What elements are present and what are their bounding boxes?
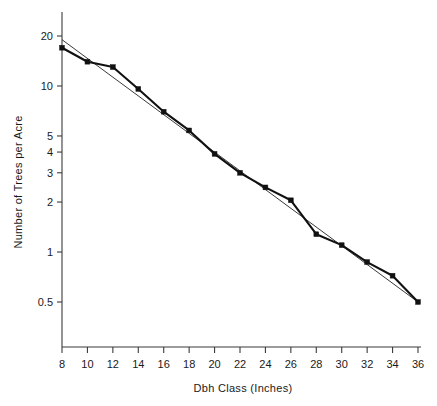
x-tick-label: 14 — [132, 358, 144, 370]
x-tick-label: 12 — [107, 358, 119, 370]
y-tick-label: 1 — [47, 246, 53, 258]
x-tick-label: 34 — [386, 358, 398, 370]
data-point-markers — [60, 45, 421, 304]
chart-container: 2010543210.5 810121416182022242628303234… — [0, 0, 437, 406]
data-point-marker — [416, 300, 421, 305]
y-tick-group: 2010543210.5 — [38, 30, 62, 308]
y-tick-label: 10 — [41, 80, 53, 92]
x-tick-group: 81012141618202224262830323436 — [59, 347, 424, 370]
y-tick-label: 5 — [47, 130, 53, 142]
y-tick-label: 0.5 — [38, 296, 53, 308]
x-axis-title: Dbh Class (Inches) — [194, 382, 293, 394]
x-tick-label: 36 — [412, 358, 424, 370]
x-tick-label: 16 — [158, 358, 170, 370]
x-tick-label: 32 — [361, 358, 373, 370]
plot-area — [60, 40, 421, 305]
x-tick-label: 22 — [234, 358, 246, 370]
data-point-marker — [212, 151, 217, 156]
x-tick-label: 26 — [285, 358, 297, 370]
data-point-marker — [263, 185, 268, 190]
data-point-marker — [314, 232, 319, 237]
data-point-marker — [161, 109, 166, 114]
data-point-marker — [85, 59, 90, 64]
y-tick-label: 4 — [47, 146, 53, 158]
y-axis-title: Number of Trees per Acre — [12, 115, 24, 248]
x-tick-label: 8 — [59, 358, 65, 370]
y-tick-label: 3 — [47, 167, 53, 179]
x-tick-label: 20 — [208, 358, 220, 370]
data-point-marker — [339, 243, 344, 248]
x-tick-label: 30 — [336, 358, 348, 370]
data-point-marker — [136, 87, 141, 92]
data-point-marker — [365, 260, 370, 265]
x-tick-label: 18 — [183, 358, 195, 370]
data-point-marker — [187, 128, 192, 133]
x-tick-label: 24 — [259, 358, 271, 370]
x-axis: 81012141618202224262830323436 — [59, 347, 424, 370]
data-point-marker — [60, 45, 65, 50]
y-axis: 2010543210.5 — [38, 12, 62, 347]
data-point-marker — [110, 65, 115, 70]
data-point-marker — [288, 198, 293, 203]
trees-per-acre-log-chart: 2010543210.5 810121416182022242628303234… — [0, 0, 437, 406]
y-tick-label: 2 — [47, 196, 53, 208]
y-tick-label: 20 — [41, 30, 53, 42]
data-point-marker — [238, 170, 243, 175]
x-tick-label: 10 — [81, 358, 93, 370]
data-point-marker — [390, 273, 395, 278]
x-tick-label: 28 — [310, 358, 322, 370]
